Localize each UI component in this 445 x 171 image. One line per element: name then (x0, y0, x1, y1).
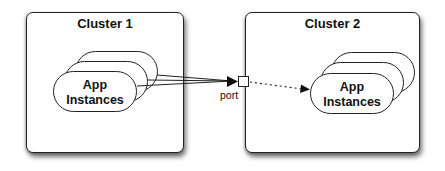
arrowhead-to-port (227, 76, 238, 87)
app-label-line2: Instances (311, 95, 393, 110)
cluster-2-title: Cluster 2 (246, 16, 419, 31)
cluster-1-app-instances-label: App Instances (54, 78, 136, 108)
app-label-line2: Instances (54, 93, 136, 108)
port-label: port (220, 89, 238, 101)
app-label-line1: App (311, 80, 393, 95)
cluster-1-app-instance-front: App Instances (53, 71, 137, 112)
app-label-line1: App (54, 78, 136, 93)
cluster-2-app-instance-front: App Instances (310, 73, 394, 114)
cluster-2-app-instances-label: App Instances (311, 80, 393, 110)
port-box (238, 76, 249, 87)
cluster-1-title: Cluster 1 (27, 16, 183, 31)
